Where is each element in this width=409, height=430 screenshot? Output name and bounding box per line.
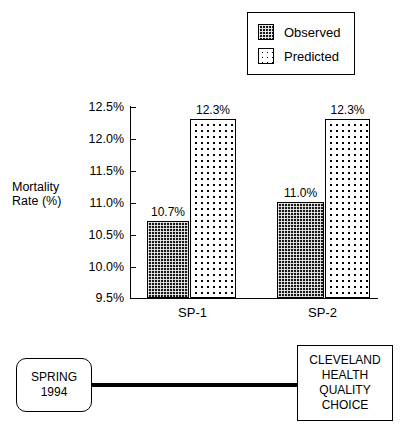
cleveland-health-quality-choice-box: CLEVELAND HEALTH QUALITY CHOICE	[297, 345, 393, 421]
bar-sp2-observed	[277, 202, 324, 298]
legend-label-observed: Observed	[284, 25, 340, 40]
legend-label-predicted: Predicted	[284, 49, 339, 64]
x-tick-label-sp1: SP-1	[140, 305, 245, 320]
chqc-box-line-1: CLEVELAND	[309, 353, 380, 368]
chqc-box-line-2: HEALTH	[322, 368, 368, 383]
y-axis-title: Mortality Rate (%)	[12, 180, 61, 208]
bar-sp2-predicted	[325, 119, 370, 298]
y-axis-title-line1: Mortality	[12, 180, 61, 194]
y-axis-title-line2: Rate (%)	[12, 194, 61, 208]
chqc-box-line-4: CHOICE	[322, 398, 369, 413]
bar-sp1-observed	[147, 221, 189, 298]
chart-legend: Observed Predicted	[247, 12, 355, 75]
spring-1994-box: SPRING 1994	[16, 358, 92, 412]
spring-box-line-1: SPRING	[31, 370, 77, 385]
bar-value-label: 12.3%	[325, 104, 370, 116]
bar-value-label: 11.0%	[277, 187, 324, 199]
bar-value-label: 12.3%	[190, 104, 236, 116]
y-tick-label: 10.0%	[76, 261, 124, 273]
bar-sp1-predicted	[190, 119, 236, 298]
plot-area: 10.7% 12.3% 11.0% 12.3%	[130, 106, 378, 298]
connector-line	[74, 383, 302, 387]
bar-value-label: 10.7%	[147, 206, 189, 218]
dotted-swatch	[258, 48, 274, 64]
y-tick-label: 11.5%	[76, 165, 124, 177]
y-tick-mark	[131, 298, 136, 299]
y-tick-label: 12.0%	[76, 133, 124, 145]
legend-item-observed: Observed	[258, 20, 354, 44]
x-axis-line	[130, 298, 378, 299]
dark-hatch-swatch	[258, 24, 274, 40]
legend-item-predicted: Predicted	[258, 44, 354, 68]
y-tick-label: 9.5%	[76, 292, 124, 304]
spring-box-line-2: 1994	[41, 385, 68, 400]
y-tick-label: 11.0%	[76, 197, 124, 209]
chqc-box-line-3: QUALITY	[319, 383, 370, 398]
x-tick-label-sp2: SP-2	[270, 305, 375, 320]
y-tick-label: 12.5%	[76, 101, 124, 113]
y-tick-label: 10.5%	[76, 229, 124, 241]
